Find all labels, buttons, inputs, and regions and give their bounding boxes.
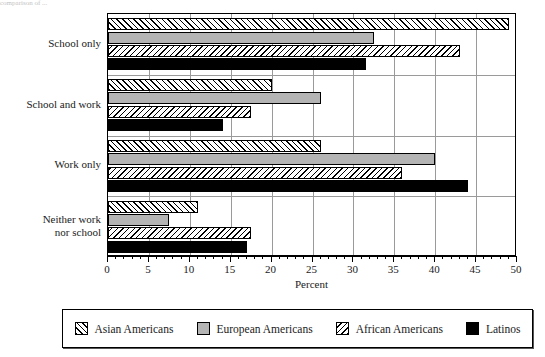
category-label: Work only	[0, 158, 101, 171]
x-tick-minor	[459, 256, 460, 259]
x-tick-minor	[483, 256, 484, 259]
category-separator	[108, 196, 515, 197]
x-tick-minor	[279, 256, 280, 259]
x-tick-minor	[467, 256, 468, 259]
x-tick-minor	[508, 256, 509, 259]
x-tick-major	[393, 256, 394, 262]
x-tick-minor	[451, 256, 452, 259]
category-label: School only	[0, 37, 101, 50]
x-tick-minor	[410, 256, 411, 259]
x-tick-major	[148, 256, 149, 262]
legend-item: European Americans	[197, 322, 313, 335]
x-tick-label: 15	[224, 263, 235, 275]
x-tick-major	[516, 256, 517, 262]
x-tick-minor	[254, 256, 255, 259]
legend-label: Asian Americans	[95, 323, 174, 335]
category-label-line: Neither work	[0, 213, 101, 226]
legend-item: African Americans	[336, 322, 443, 335]
x-tick-minor	[115, 256, 116, 259]
x-tick-label: 25	[306, 263, 317, 275]
x-tick-label: 35	[388, 263, 399, 275]
x-tick-minor	[262, 256, 263, 259]
x-tick-minor	[222, 256, 223, 259]
x-tick-major	[271, 256, 272, 262]
bar	[108, 201, 198, 213]
legend-item: Latinos	[466, 322, 521, 335]
bar	[108, 214, 169, 226]
x-tick-minor	[385, 256, 386, 259]
bar	[108, 92, 321, 104]
x-tick-minor	[442, 256, 443, 259]
x-tick-major	[312, 256, 313, 262]
category-label-line: School only	[0, 37, 101, 50]
bar	[108, 140, 321, 152]
bar	[108, 180, 468, 192]
category-label: School and work	[0, 98, 101, 111]
gray-swatch	[197, 322, 210, 335]
forward-hatch-swatch	[75, 322, 88, 335]
x-tick-minor	[336, 256, 337, 259]
x-tick-major	[107, 256, 108, 262]
x-tick-label: 45	[470, 263, 481, 275]
gridline-45	[476, 14, 477, 255]
legend-label: African Americans	[356, 323, 443, 335]
x-tick-minor	[377, 256, 378, 259]
bar	[108, 227, 251, 239]
x-tick-major	[475, 256, 476, 262]
x-tick-minor	[123, 256, 124, 259]
x-tick-minor	[401, 256, 402, 259]
bar	[108, 153, 435, 165]
x-tick-minor	[287, 256, 288, 259]
x-tick-major	[352, 256, 353, 262]
x-tick-minor	[164, 256, 165, 259]
x-tick-minor	[238, 256, 239, 259]
bar	[108, 45, 460, 57]
category-label: Neither worknor school	[0, 213, 101, 239]
x-tick-minor	[140, 256, 141, 259]
x-tick-major	[434, 256, 435, 262]
caption-remnant: comparison of ...	[0, 0, 200, 7]
black-swatch	[466, 322, 479, 335]
x-tick-minor	[361, 256, 362, 259]
bar	[108, 18, 509, 30]
x-tick-minor	[500, 256, 501, 259]
bar	[108, 79, 272, 91]
category-separator	[108, 75, 515, 76]
category-label-line: nor school	[0, 226, 101, 239]
bar	[108, 241, 247, 253]
chart-plot-area	[107, 13, 516, 256]
x-tick-label: 40	[429, 263, 440, 275]
x-tick-minor	[156, 256, 157, 259]
x-tick-minor	[205, 256, 206, 259]
bar	[108, 119, 223, 131]
legend-label: Latinos	[486, 323, 521, 335]
x-tick-minor	[418, 256, 419, 259]
x-tick-minor	[320, 256, 321, 259]
bar	[108, 106, 251, 118]
chart-legend: Asian AmericansEuropean AmericansAfrican…	[62, 309, 533, 348]
legend-item: Asian Americans	[75, 322, 174, 335]
x-tick-label: 20	[265, 263, 276, 275]
x-tick-label: 10	[183, 263, 194, 275]
category-separator	[108, 136, 515, 137]
backward-hatch-swatch	[336, 322, 349, 335]
x-tick-major	[189, 256, 190, 262]
category-label-line: Work only	[0, 158, 101, 171]
bar	[108, 32, 374, 44]
x-tick-minor	[181, 256, 182, 259]
x-tick-minor	[303, 256, 304, 259]
x-axis-title: Percent	[107, 278, 516, 290]
x-tick-label: 5	[145, 263, 151, 275]
x-tick-label: 0	[104, 263, 110, 275]
x-tick-label: 50	[511, 263, 522, 275]
x-tick-minor	[369, 256, 370, 259]
x-tick-minor	[426, 256, 427, 259]
x-tick-minor	[328, 256, 329, 259]
x-tick-minor	[344, 256, 345, 259]
x-tick-minor	[213, 256, 214, 259]
x-tick-minor	[172, 256, 173, 259]
x-tick-minor	[197, 256, 198, 259]
legend-label: European Americans	[217, 323, 313, 335]
x-tick-minor	[491, 256, 492, 259]
x-tick-minor	[295, 256, 296, 259]
